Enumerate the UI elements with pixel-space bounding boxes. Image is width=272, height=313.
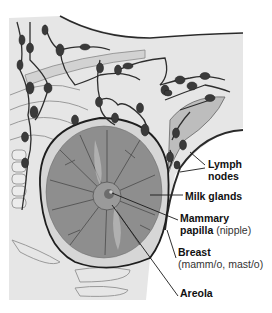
label-breast-line2: (mamm/o, mast/o): [178, 258, 263, 270]
label-milk-glands-text: Milk glands: [185, 190, 242, 202]
label-mammary-papilla-note: (nipple): [216, 224, 251, 236]
nipple: [104, 189, 114, 199]
label-mammary-papilla: Mammary papilla (nipple): [180, 212, 251, 236]
label-breast: Breast (mamm/o, mast/o): [178, 246, 263, 270]
label-milk-glands: Milk glands: [185, 190, 242, 202]
label-mammary-papilla-line1: Mammary: [180, 212, 229, 224]
label-lymph-nodes: Lymph nodes: [208, 158, 242, 182]
label-lymph-nodes-line2: nodes: [208, 170, 239, 182]
label-mammary-papilla-bold: papilla: [180, 224, 213, 236]
label-lymph-nodes-line1: Lymph: [208, 158, 242, 170]
label-areola-text: Areola: [180, 287, 213, 299]
label-breast-line1: Breast: [178, 246, 211, 258]
label-areola: Areola: [180, 287, 213, 299]
